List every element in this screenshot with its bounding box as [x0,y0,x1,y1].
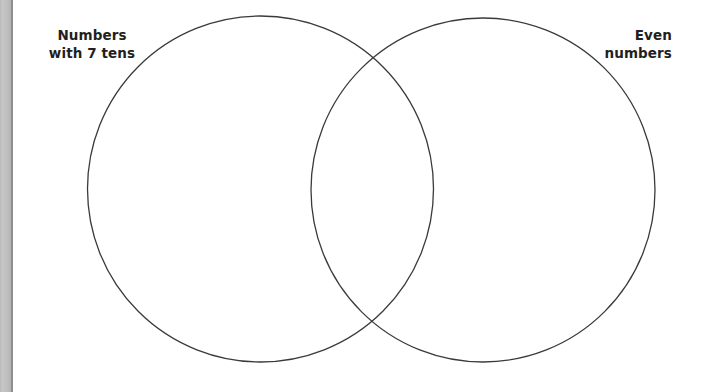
venn-circle-left[interactable] [88,16,434,362]
left-set-label-line2: with 7 tens [22,44,162,62]
left-set-label: Numbers with 7 tens [22,26,162,62]
right-set-label: Even numbers [530,26,672,62]
venn-diagram-page: Numbers with 7 tens Even numbers [0,0,703,392]
venn-circle-right[interactable] [311,18,655,362]
left-set-label-line1: Numbers [22,26,162,44]
right-set-label-line2: numbers [530,44,672,62]
right-set-label-line1: Even [530,26,672,44]
